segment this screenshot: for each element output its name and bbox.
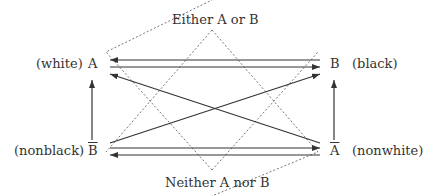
node-b: B [330, 57, 340, 70]
either-a-or-b-label: Either A or B [172, 13, 259, 26]
black-label: (black) [352, 57, 398, 70]
node-not-b: B [88, 144, 98, 157]
nonwhite-label: (nonwhite) [352, 144, 423, 157]
square-of-opposition-diagram [0, 0, 425, 196]
node-not-a: A [330, 144, 339, 157]
either-region-dotted [106, 30, 318, 196]
white-label: (white) [36, 57, 83, 70]
nonblack-label: (nonblack) [14, 144, 84, 157]
neither-a-nor-b-label: Neither A nor B [165, 176, 269, 189]
node-a: A [88, 57, 97, 70]
